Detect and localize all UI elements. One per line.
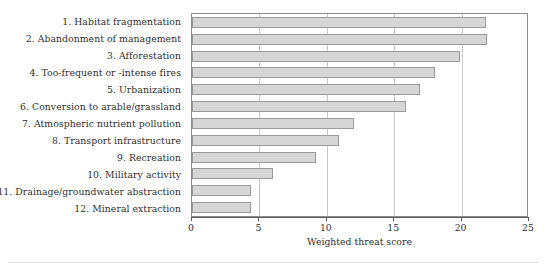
category-label: 2. Abandonment of management <box>0 30 186 47</box>
x-axis-label: Weighted threat score <box>191 236 528 247</box>
bar-row <box>192 14 527 31</box>
bar-row <box>192 81 527 98</box>
category-label: 3. Afforestation <box>0 47 186 64</box>
bar-chart-figure: 1. Habitat fragmentation2. Abandonment o… <box>0 0 546 268</box>
x-tick <box>461 217 462 221</box>
x-tick-label: 20 <box>455 222 467 233</box>
category-label: 4. Too-frequent or -intense fires <box>0 64 186 81</box>
bar <box>192 84 420 95</box>
category-label: 10. Military activity <box>0 166 186 183</box>
bar <box>192 118 354 129</box>
bar-row <box>192 48 527 65</box>
bar-row <box>192 31 527 48</box>
bar <box>192 101 406 112</box>
category-label: 9. Recreation <box>0 149 186 166</box>
bar <box>192 202 251 213</box>
category-label: 6. Conversion to arable/grassland <box>0 98 186 115</box>
x-tick <box>528 217 529 221</box>
x-tick-label: 5 <box>255 222 261 233</box>
x-tick-label: 15 <box>387 222 399 233</box>
bar <box>192 67 435 78</box>
x-tick <box>326 217 327 221</box>
bar-row <box>192 165 527 182</box>
category-label: 7. Atmospheric nutrient pollution <box>0 115 186 132</box>
bar-row <box>192 199 527 216</box>
bar-row <box>192 64 527 81</box>
bar-row <box>192 182 527 199</box>
bar <box>192 51 460 62</box>
bar-series <box>192 14 527 216</box>
bar <box>192 17 486 28</box>
category-label-column: 1. Habitat fragmentation2. Abandonment o… <box>0 13 186 217</box>
x-tick <box>393 217 394 221</box>
bar <box>192 152 316 163</box>
x-tick-label: 0 <box>188 222 194 233</box>
category-label: 8. Transport infrastructure <box>0 132 186 149</box>
category-label: 1. Habitat fragmentation <box>0 13 186 30</box>
category-label: 5. Urbanization <box>0 81 186 98</box>
x-tick <box>191 217 192 221</box>
bar <box>192 168 273 179</box>
category-label: 11. Drainage/groundwater abstraction <box>0 183 186 200</box>
bar <box>192 135 339 146</box>
category-label: 12. Mineral extraction <box>0 200 186 217</box>
bar <box>192 34 487 45</box>
x-tick-label: 25 <box>522 222 534 233</box>
x-tick-label: 10 <box>320 222 332 233</box>
plot-area <box>191 13 528 217</box>
bar-row <box>192 98 527 115</box>
bar-row <box>192 149 527 166</box>
bar-row <box>192 132 527 149</box>
x-axis: 0510152025 <box>191 217 528 218</box>
x-tick <box>258 217 259 221</box>
bar <box>192 185 251 196</box>
bar-row <box>192 115 527 132</box>
bottom-divider <box>8 262 538 263</box>
